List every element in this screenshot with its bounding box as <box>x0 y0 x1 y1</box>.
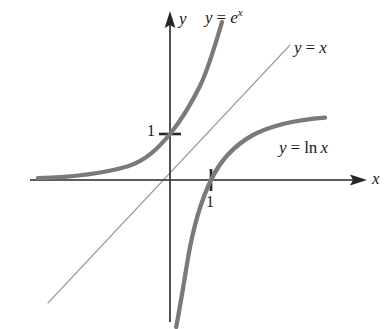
y-axis-label: y <box>179 10 187 27</box>
x-axis-tick-label-one: 1 <box>206 194 214 210</box>
label-identity-lhs: y <box>294 38 302 57</box>
label-log-argument: x <box>320 138 328 157</box>
label-exp-lhs: y <box>205 8 213 27</box>
x-axis-label: x <box>372 170 380 187</box>
label-log-lhs: y <box>279 138 287 157</box>
label-identity-rhs: x <box>319 38 327 57</box>
label-exp-operator: = <box>217 8 227 27</box>
curve-exponential <box>38 22 222 178</box>
label-logarithm-curve: y=lnx <box>279 139 328 156</box>
label-exp-exponent: x <box>238 6 243 18</box>
label-log-operator: = <box>291 138 301 157</box>
y-axis-tick-label-one: 1 <box>147 123 155 139</box>
plot-canvas <box>0 0 392 329</box>
label-identity-line: y=x <box>294 39 327 56</box>
exp-log-graph-figure: y=ex y=x y=lnx y x 1 1 <box>0 0 392 329</box>
label-identity-operator: = <box>306 38 316 57</box>
label-exponential-curve: y=ex <box>205 9 243 26</box>
label-log-function: ln <box>304 138 317 157</box>
label-exp-base: e <box>230 8 238 27</box>
